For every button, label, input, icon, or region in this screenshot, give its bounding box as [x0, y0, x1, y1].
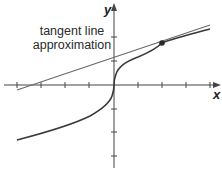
tangency-point: [159, 40, 165, 46]
x-axis-label: x: [212, 87, 221, 102]
y-axis-arrow-icon: [111, 3, 117, 11]
y-axis-label: y: [103, 2, 112, 17]
tangent-line-diagram: tangent line approximation y x: [0, 0, 222, 171]
annotation-line1: tangent line: [40, 24, 105, 38]
annotation-line2: approximation: [33, 38, 112, 52]
